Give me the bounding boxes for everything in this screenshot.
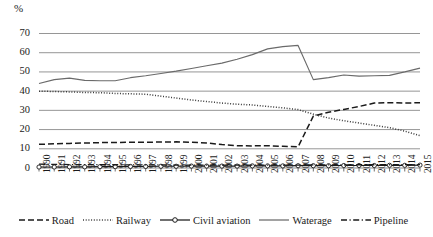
dashed-line-key [19, 215, 49, 225]
solid-line-key [259, 215, 289, 225]
series-line-road [39, 103, 420, 147]
series-line-civil-aviation [39, 165, 420, 167]
series-marker-civil-aviation [326, 164, 330, 168]
legend-label: Pipeline [374, 215, 408, 226]
legend-item-waterage[interactable]: Waterage [259, 215, 331, 226]
legend-item-civil-aviation[interactable]: Civil aviation [160, 215, 250, 226]
series-line-railway [39, 91, 420, 136]
chart-legend: RoadRailwayCivil aviationWateragePipelin… [0, 210, 427, 230]
series-marker-civil-aviation [403, 163, 407, 167]
series-marker-civil-aviation [281, 164, 285, 168]
legend-item-road[interactable]: Road [19, 215, 74, 226]
series-line-waterage [39, 45, 420, 83]
dotted-line-key [83, 215, 113, 225]
series-marker-civil-aviation [266, 164, 270, 168]
legend-item-pipeline[interactable]: Pipeline [341, 215, 408, 226]
legend-label: Railway [116, 215, 151, 226]
series-marker-civil-aviation [37, 165, 41, 169]
series-marker-civil-aviation [250, 164, 254, 168]
series-marker-civil-aviation [311, 164, 315, 168]
legend-label: Civil aviation [193, 215, 250, 226]
dashdot-line-key [341, 215, 371, 225]
legend-label: Road [52, 215, 74, 226]
series-marker-civil-aviation [52, 165, 56, 169]
legend-item-railway[interactable]: Railway [83, 215, 151, 226]
series-marker-civil-aviation [83, 165, 87, 169]
legend-label: Waterage [292, 215, 331, 226]
series-marker-civil-aviation [67, 165, 71, 169]
series-marker-civil-aviation [357, 163, 361, 167]
solid-circle-line-key [160, 215, 190, 225]
series-marker-civil-aviation [372, 163, 376, 167]
